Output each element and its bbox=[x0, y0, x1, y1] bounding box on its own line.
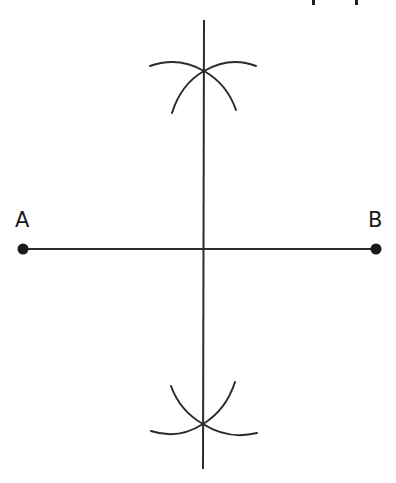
diagram-canvas bbox=[0, 0, 396, 483]
arc-top-left-lower bbox=[172, 71, 204, 113]
arc-bottom-left-lower bbox=[151, 424, 203, 434]
arc-top-right-lower bbox=[204, 71, 236, 110]
perpendicular-bisector-diagram: A B bbox=[0, 0, 396, 483]
point-b bbox=[371, 244, 382, 255]
point-a-label: A bbox=[15, 210, 29, 231]
arc-bottom-right-lower bbox=[203, 424, 257, 435]
point-b-label: B bbox=[368, 210, 382, 231]
perpendicular-bisector-line bbox=[203, 20, 204, 469]
point-a bbox=[18, 244, 29, 255]
arc-top-left-upper bbox=[150, 62, 204, 71]
arc-bottom-left-upper bbox=[171, 386, 203, 424]
cropped-title-fragment bbox=[312, 0, 358, 5]
arc-bottom-right-upper bbox=[203, 382, 235, 424]
arc-top-right-upper bbox=[204, 62, 256, 71]
